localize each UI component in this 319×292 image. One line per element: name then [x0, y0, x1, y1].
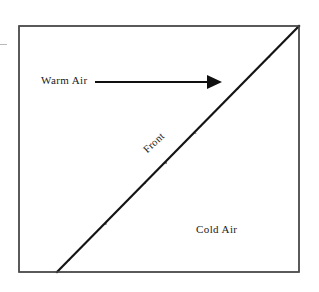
cold-air-label: Cold Air [196, 223, 237, 235]
weather-front-diagram: Warm Air Cold Air Front [0, 0, 319, 292]
left-edge-artifact [0, 44, 7, 45]
diagram-canvas [0, 0, 319, 292]
warm-air-label: Warm Air [41, 74, 88, 86]
diagram-frame [19, 26, 299, 272]
